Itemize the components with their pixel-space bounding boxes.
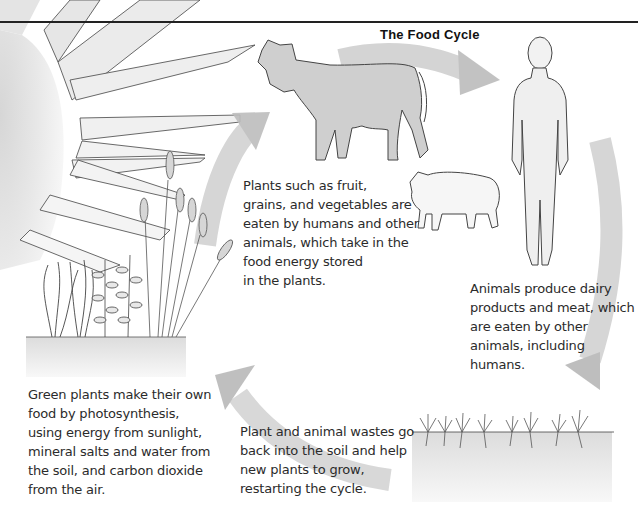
caption-animals-produce: Animals produce dairy products and meat,…	[470, 279, 638, 374]
food-cycle-diagram: The Food Cycle Plants such as fruit, gra…	[0, 0, 638, 526]
diagram-title: The Food Cycle	[380, 27, 480, 42]
caption-green-plants: Green plants make their own food by phot…	[28, 385, 248, 499]
human-illustration	[512, 37, 568, 265]
sun-icon	[0, 0, 262, 272]
soil-seedlings-illustration	[412, 410, 614, 502]
caption-wastes: Plant and animal wastes go back into the…	[240, 422, 420, 498]
top-divider-line	[0, 21, 638, 23]
caption-plants-eaten: Plants such as fruit, grains, and vegeta…	[243, 176, 443, 290]
